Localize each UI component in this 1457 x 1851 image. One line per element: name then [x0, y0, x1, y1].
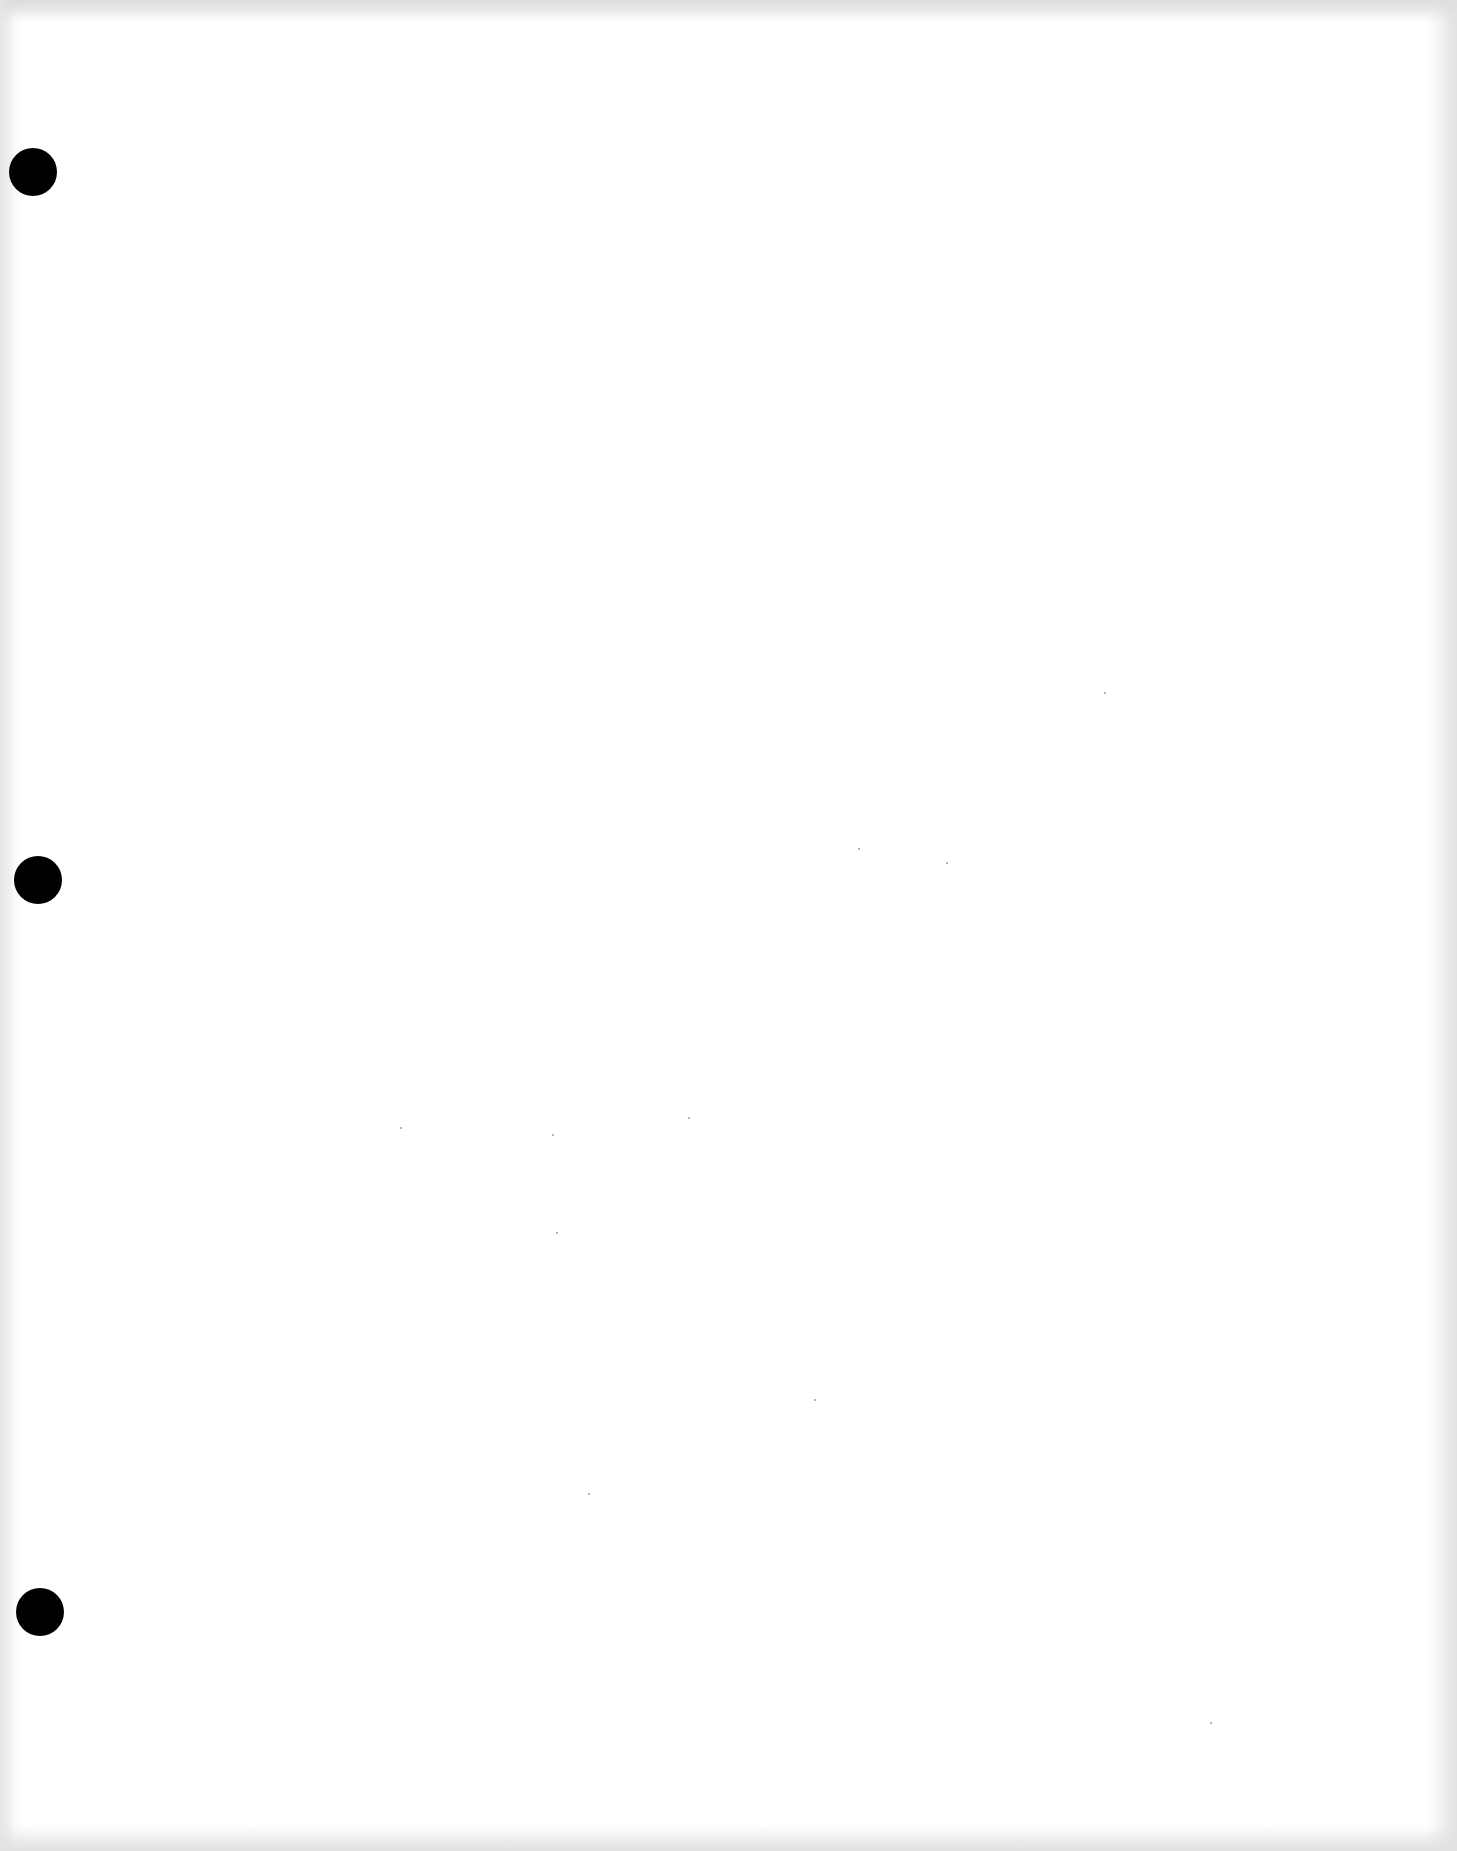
scan-speck	[552, 1134, 554, 1136]
scan-edge-shadow-left	[0, 0, 14, 1851]
scan-speck	[1210, 1722, 1212, 1724]
punch-hole-top	[9, 148, 57, 196]
scan-speck	[858, 848, 860, 850]
scan-speck	[588, 1493, 590, 1495]
scan-edge-shadow-bottom	[0, 1825, 1457, 1851]
scan-speck	[688, 1117, 690, 1119]
scan-speck	[946, 862, 948, 864]
scan-speck	[556, 1232, 558, 1234]
punch-hole-bottom	[16, 1588, 64, 1636]
scan-speck	[400, 1127, 402, 1129]
scan-speck	[814, 1399, 816, 1401]
punch-hole-middle	[14, 856, 62, 904]
blank-page	[0, 0, 1457, 1851]
scan-speck	[1104, 692, 1106, 694]
scan-edge-shadow-right	[1427, 0, 1457, 1851]
scan-edge-shadow-top	[0, 0, 1457, 22]
